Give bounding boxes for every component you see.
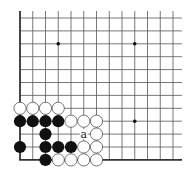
black-stone (14, 115, 26, 127)
white-stone (90, 128, 102, 140)
black-stone (65, 141, 77, 153)
black-stone (52, 141, 64, 153)
go-board: a (0, 0, 190, 182)
white-stone (78, 154, 90, 166)
white-stone (39, 102, 51, 114)
white-stone (78, 141, 90, 153)
white-stone (65, 115, 77, 127)
point-label-a: a (80, 128, 87, 141)
black-stone (39, 115, 51, 127)
star-point (56, 42, 60, 46)
white-stone (27, 102, 39, 114)
white-stone (65, 154, 77, 166)
black-stone (39, 141, 51, 153)
black-stone (39, 154, 51, 166)
point-labels: a (80, 128, 88, 141)
black-stone (14, 141, 26, 153)
black-stone (52, 115, 64, 127)
black-stone (27, 115, 39, 127)
white-stone (14, 102, 26, 114)
white-stone (52, 102, 64, 114)
white-stone (90, 154, 102, 166)
white-stone (90, 141, 102, 153)
white-stone (90, 115, 102, 127)
white-stone (52, 154, 64, 166)
black-stone (39, 128, 51, 140)
star-point (133, 119, 137, 123)
white-stone (78, 115, 90, 127)
star-point (133, 42, 137, 46)
